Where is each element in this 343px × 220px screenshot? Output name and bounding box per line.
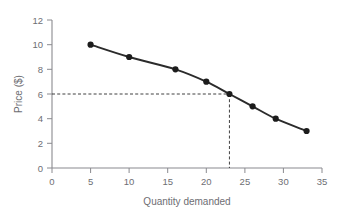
y-axis-title: Price ($) (13, 75, 24, 113)
y-axis-ticks (47, 20, 52, 168)
y-axis-tick-labels: 0 2 4 6 8 10 12 (32, 15, 43, 174)
chart-canvas: 0 2 4 6 8 10 12 0 5 10 15 20 25 30 (0, 0, 343, 220)
data-point-5-10 (87, 42, 93, 48)
y-tick-label-4: 4 (38, 113, 43, 124)
data-point-20-7 (203, 79, 209, 85)
x-tick-label-0: 0 (49, 176, 54, 187)
y-tick-label-12: 12 (32, 15, 43, 26)
data-point-33-3 (303, 128, 309, 134)
y-tick-label-10: 10 (32, 39, 43, 50)
y-tick-label-8: 8 (38, 64, 43, 75)
price-quantity-guide (52, 94, 229, 168)
x-tick-label-5: 5 (88, 176, 93, 187)
y-tick-label-0: 0 (38, 163, 43, 174)
x-tick-label-25: 25 (240, 176, 251, 187)
x-axis-title: Quantity demanded (143, 196, 230, 207)
y-tick-label-2: 2 (38, 138, 43, 149)
x-tick-label-35: 35 (317, 176, 328, 187)
x-tick-label-30: 30 (278, 176, 289, 187)
y-tick-label-6: 6 (38, 89, 43, 100)
data-point-16-8 (172, 66, 178, 72)
data-point-29-4 (273, 116, 279, 122)
demand-curve-chart: 0 2 4 6 8 10 12 0 5 10 15 20 25 30 (0, 0, 343, 220)
data-point-23-6 (226, 91, 232, 97)
x-axis-tick-labels: 0 5 10 15 20 25 30 35 (49, 176, 327, 187)
data-point-26-5 (249, 103, 255, 109)
data-point-10-9 (126, 54, 132, 60)
x-tick-label-20: 20 (201, 176, 212, 187)
x-axis-ticks (52, 168, 322, 173)
x-tick-label-10: 10 (124, 176, 135, 187)
x-tick-label-15: 15 (162, 176, 173, 187)
